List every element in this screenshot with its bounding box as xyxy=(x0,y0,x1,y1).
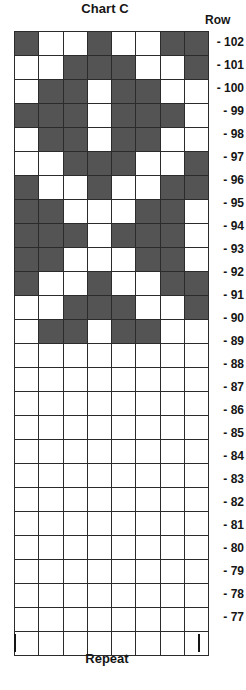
chart-cell xyxy=(15,104,39,128)
chart-row xyxy=(15,488,209,512)
chart-row xyxy=(15,560,209,584)
chart-cell xyxy=(136,296,160,320)
chart-cell xyxy=(87,320,111,344)
chart-cell xyxy=(160,32,184,56)
chart-cell xyxy=(63,416,87,440)
chart-grid-container xyxy=(14,31,200,629)
chart-cell xyxy=(112,608,136,632)
chart-cell xyxy=(160,440,184,464)
chart-row xyxy=(15,248,209,272)
row-number-label: - 85 xyxy=(200,422,246,445)
chart-cell xyxy=(87,536,111,560)
chart-cell xyxy=(87,176,111,200)
row-number-label: - 79 xyxy=(200,560,246,583)
chart-cell xyxy=(160,176,184,200)
row-number-label: - 78 xyxy=(200,583,246,606)
repeat-tick-right xyxy=(198,634,200,652)
row-number-axis: - 102- 101- 100- 99- 98- 97- 96- 95- 94-… xyxy=(200,31,246,629)
repeat-indicator: Repeat xyxy=(14,634,200,674)
chart-cell xyxy=(160,56,184,80)
chart-row xyxy=(15,344,209,368)
chart-cell xyxy=(136,80,160,104)
chart-row xyxy=(15,272,209,296)
chart-cell xyxy=(15,512,39,536)
chart-row xyxy=(15,512,209,536)
chart-cell xyxy=(15,248,39,272)
chart-cell xyxy=(87,152,111,176)
chart-cell xyxy=(136,272,160,296)
chart-cell xyxy=(15,32,39,56)
chart-cell xyxy=(87,272,111,296)
row-number-label: - 80 xyxy=(200,537,246,560)
chart-cell xyxy=(160,608,184,632)
chart-cell xyxy=(39,32,63,56)
chart-cell xyxy=(136,200,160,224)
chart-cell xyxy=(160,560,184,584)
chart-cell xyxy=(63,488,87,512)
chart-cell xyxy=(136,344,160,368)
chart-cell xyxy=(112,536,136,560)
chart-cell xyxy=(136,32,160,56)
chart-cell xyxy=(87,248,111,272)
chart-cell xyxy=(87,416,111,440)
chart-cell xyxy=(136,416,160,440)
chart-cell xyxy=(63,344,87,368)
chart-cell xyxy=(160,104,184,128)
chart-cell xyxy=(160,392,184,416)
row-number-label: - 83 xyxy=(200,468,246,491)
chart-cell xyxy=(15,392,39,416)
chart-row xyxy=(15,80,209,104)
chart-cell xyxy=(63,272,87,296)
chart-cell xyxy=(63,128,87,152)
chart-cell xyxy=(63,320,87,344)
chart-cell xyxy=(15,560,39,584)
chart-row xyxy=(15,320,209,344)
chart-cell xyxy=(39,296,63,320)
chart-cell xyxy=(136,176,160,200)
chart-cell xyxy=(136,512,160,536)
chart-row xyxy=(15,224,209,248)
chart-cell xyxy=(136,224,160,248)
row-number-label: - 101 xyxy=(200,54,246,77)
chart-cell xyxy=(39,416,63,440)
chart-cell xyxy=(87,296,111,320)
row-column-header: Row xyxy=(205,13,245,27)
chart-cell xyxy=(160,584,184,608)
row-number-label: - 99 xyxy=(200,100,246,123)
chart-cell xyxy=(63,560,87,584)
chart-cell xyxy=(87,128,111,152)
stitch-chart-grid xyxy=(14,31,209,656)
chart-cell xyxy=(39,152,63,176)
chart-cell xyxy=(160,464,184,488)
chart-cell xyxy=(87,392,111,416)
chart-cell xyxy=(63,296,87,320)
chart-row xyxy=(15,128,209,152)
row-number-label: - 81 xyxy=(200,514,246,537)
row-number-label: - 82 xyxy=(200,491,246,514)
chart-grid-body xyxy=(15,32,209,656)
chart-cell xyxy=(112,200,136,224)
chart-cell xyxy=(15,56,39,80)
chart-cell xyxy=(63,608,87,632)
chart-cell xyxy=(39,80,63,104)
chart-row xyxy=(15,176,209,200)
chart-cell xyxy=(112,392,136,416)
chart-cell xyxy=(160,296,184,320)
chart-cell xyxy=(87,200,111,224)
chart-cell xyxy=(15,608,39,632)
chart-cell xyxy=(63,584,87,608)
chart-cell xyxy=(112,440,136,464)
chart-cell xyxy=(63,392,87,416)
chart-cell xyxy=(160,488,184,512)
chart-cell xyxy=(63,248,87,272)
chart-cell xyxy=(15,416,39,440)
chart-cell xyxy=(112,296,136,320)
chart-cell xyxy=(112,512,136,536)
chart-cell xyxy=(112,104,136,128)
chart-cell xyxy=(112,32,136,56)
repeat-label: Repeat xyxy=(14,651,200,666)
chart-row xyxy=(15,536,209,560)
chart-cell xyxy=(39,344,63,368)
chart-cell xyxy=(136,128,160,152)
chart-row xyxy=(15,368,209,392)
